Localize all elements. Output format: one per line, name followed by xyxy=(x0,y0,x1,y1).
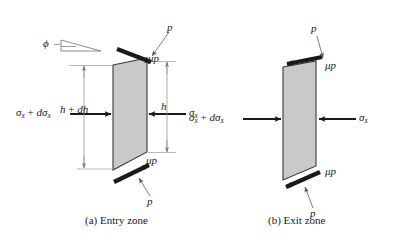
pressure-label-leader-top-exit xyxy=(317,36,323,58)
dimension-height-left-entry xyxy=(69,66,114,170)
angle-label-entry: ϕ xyxy=(43,38,49,49)
height-label-right-entry: h xyxy=(161,101,167,112)
stress-label-right-exit: σx xyxy=(359,112,368,124)
friction-label-top-entry: μp xyxy=(148,53,159,64)
caption-entry-zone: (a) Entry zone xyxy=(85,215,148,226)
pressure-label-leader-bottom-entry xyxy=(139,178,150,196)
pressure-label-bottom-entry: p xyxy=(147,196,153,207)
pressure-arrow-bottom-entry xyxy=(114,165,149,182)
friction-label-bottom-exit: μp xyxy=(325,166,336,177)
entry-slab-element xyxy=(113,58,147,170)
exit-slab-element xyxy=(283,61,316,180)
pressure-label-top-entry: p xyxy=(167,22,173,33)
pressure-arrow-top-entry xyxy=(117,49,151,62)
friction-label-top-exit: μp xyxy=(325,60,336,71)
angle-wedge-entry xyxy=(61,40,101,51)
pressure-label-top-exit: p xyxy=(311,23,317,34)
pressure-label-leader-bottom-exit xyxy=(305,187,313,208)
height-label-left-entry: h + dh xyxy=(60,104,88,115)
stress-label-left-entry: σx + dσx xyxy=(16,107,51,119)
friction-label-bottom-entry: μp xyxy=(146,155,157,166)
figure-root: ϕ p μp μp p h + dh h σx + dσx σx p μp μp… xyxy=(0,0,394,240)
stress-label-left-exit: σx + dσx xyxy=(189,112,224,124)
caption-exit-zone: (b) Exit zone xyxy=(268,215,325,226)
